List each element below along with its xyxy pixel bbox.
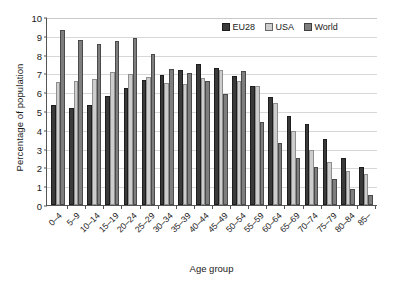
x-axis-tick-label: 35–39 — [175, 207, 193, 259]
chart-legend: EU28 USA World — [222, 22, 338, 32]
bar-group — [230, 18, 248, 205]
bar-group — [85, 18, 103, 205]
x-axis-tick-label: 20–24 — [121, 207, 139, 259]
x-axis-tick-labels: 0–45–910–1415–1920–2425–2930–3435–3940–4… — [46, 207, 377, 259]
x-axis-tick-label: 50–54 — [230, 207, 248, 259]
legend-swatch-icon-world — [304, 23, 312, 31]
bar-world — [296, 158, 301, 205]
x-axis-tick-label: 15–19 — [103, 207, 121, 259]
legend-item-eu28: EU28 — [222, 22, 255, 32]
bar-world — [223, 94, 228, 205]
bar-group — [140, 18, 158, 205]
legend-swatch-icon-eu28 — [222, 23, 230, 31]
legend-item-world: World — [304, 22, 338, 32]
x-axis-tick-label: 80–84 — [339, 207, 357, 259]
legend-label-eu28: EU28 — [233, 22, 256, 32]
bar-world — [97, 44, 102, 205]
x-axis-tick-label: 30–34 — [157, 207, 175, 259]
x-axis-title: Age group — [46, 263, 377, 274]
bar-group — [266, 18, 284, 205]
bar-world — [278, 143, 283, 205]
bar-group — [194, 18, 212, 205]
bar-world — [60, 30, 65, 205]
legend-item-usa: USA — [265, 22, 294, 32]
x-axis-tick-label: 60–64 — [266, 207, 284, 259]
x-axis-tick-label: 55–59 — [248, 207, 266, 259]
x-axis-tick-label: 0–4 — [48, 207, 66, 259]
legend-label-usa: USA — [276, 22, 295, 32]
bar-world — [260, 122, 265, 205]
x-axis-tick-label: 70–74 — [302, 207, 320, 259]
bar-world — [205, 81, 210, 205]
bar-world — [187, 73, 192, 205]
x-axis-tick-label: 75–79 — [321, 207, 339, 259]
bar-group — [357, 18, 375, 205]
legend-swatch-icon-usa — [265, 23, 273, 31]
bar-group — [176, 18, 194, 205]
bar-world — [350, 189, 355, 205]
bar-world — [332, 179, 337, 205]
plot-area: 012345678910 — [46, 18, 377, 206]
bar-group — [67, 18, 85, 205]
bar-world — [368, 195, 373, 205]
bar-group — [158, 18, 176, 205]
bar-world — [133, 38, 138, 205]
bar-group — [49, 18, 67, 205]
bar-world — [241, 71, 246, 205]
x-axis-tick-label: 5–9 — [66, 207, 84, 259]
bar-groups — [47, 18, 377, 205]
x-axis-tick-label: 65–69 — [284, 207, 302, 259]
bar-group — [339, 18, 357, 205]
x-axis-tick-label: 45–49 — [212, 207, 230, 259]
y-axis-title: Percentage of population — [14, 33, 25, 203]
bar-chart-figure: Percentage of population 012345678910 0–… — [0, 0, 397, 291]
bar-group — [121, 18, 139, 205]
bar-world — [151, 54, 156, 205]
x-axis-tick-label: 10–14 — [84, 207, 102, 259]
bar-group — [284, 18, 302, 205]
legend-label-world: World — [315, 22, 338, 32]
bar-group — [103, 18, 121, 205]
bar-world — [314, 167, 319, 205]
x-axis-tick-label: 25–29 — [139, 207, 157, 259]
bar-group — [248, 18, 266, 205]
bar-group — [321, 18, 339, 205]
bar-world — [78, 40, 83, 205]
bar-world — [169, 69, 174, 205]
bar-group — [212, 18, 230, 205]
x-axis-tick-label: 40–44 — [193, 207, 211, 259]
bar-world — [115, 41, 120, 206]
bar-group — [303, 18, 321, 205]
x-axis-tick-label: 85– — [357, 207, 375, 259]
